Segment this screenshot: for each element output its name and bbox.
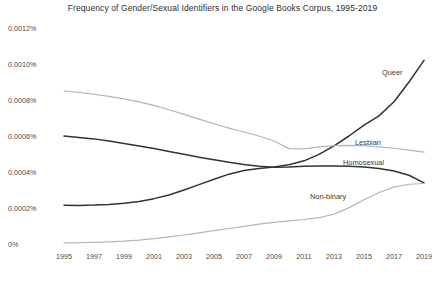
series-label-non-binary: Non-binary — [310, 192, 346, 201]
x-axis-tick-label: 1999 — [116, 252, 132, 261]
series-label-lesbian: Lesbian — [355, 138, 381, 147]
series-label-homosexual: Homosexual — [343, 158, 384, 167]
y-axis-tick-label: 0.0008% — [8, 96, 37, 105]
x-axis-tick-label: 2015 — [356, 252, 372, 261]
y-axis-tick-label: 0.0006% — [8, 132, 37, 141]
y-axis-tick-label: 0% — [8, 240, 19, 249]
series-line-non-binary — [64, 184, 424, 243]
x-axis-tick-label: 2009 — [266, 252, 282, 261]
x-axis-tick-label: 2007 — [236, 252, 252, 261]
y-axis-tick-label: 0.0002% — [8, 204, 37, 213]
series-line-queer — [64, 60, 424, 205]
x-axis-tick-label: 2011 — [296, 252, 311, 261]
line-chart: 0%0.0002%0.0004%0.0006%0.0008%0.0010%0.0… — [0, 0, 445, 283]
y-axis-tick-label: 0.0012% — [8, 24, 37, 33]
x-axis-tick-label: 2001 — [146, 252, 162, 261]
x-axis-tick-label: 2003 — [176, 252, 192, 261]
series-label-queer: Queer — [382, 68, 403, 77]
x-axis-tick-label: 2005 — [206, 252, 222, 261]
x-axis-tick-label: 1997 — [86, 252, 102, 261]
x-axis-tick-label: 2017 — [386, 252, 402, 261]
x-axis-tick-label: 2013 — [326, 252, 342, 261]
x-axis-tick-label: 2019 — [416, 252, 432, 261]
y-axis-tick-label: 0.0010% — [8, 60, 37, 69]
y-axis-tick-label: 0.0004% — [8, 168, 37, 177]
x-axis-tick-label: 1995 — [56, 252, 72, 261]
chart-container: Frequency of Gender/Sexual Identifiers i… — [0, 0, 445, 283]
